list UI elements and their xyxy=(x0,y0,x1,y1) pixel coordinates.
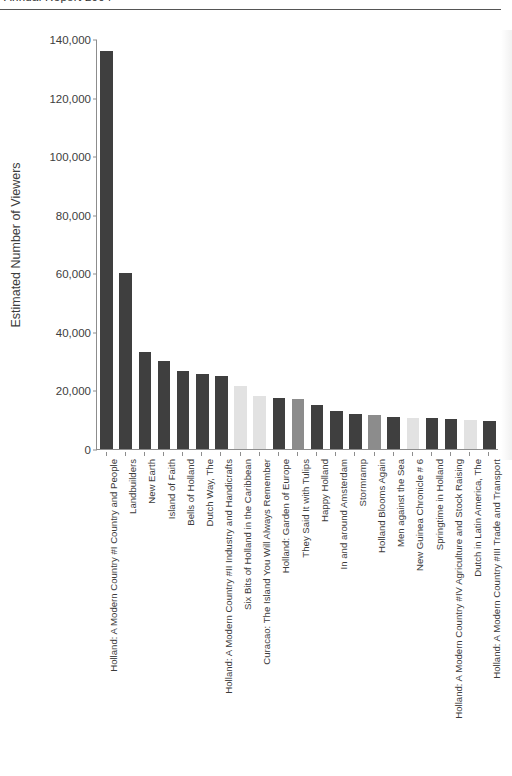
bar[interactable] xyxy=(196,374,209,449)
y-axis-tick-mark xyxy=(93,450,97,451)
x-axis-tick-mark xyxy=(220,452,221,456)
x-axis-tick-mark xyxy=(182,452,183,456)
bar[interactable] xyxy=(292,399,305,449)
x-axis-tick-mark xyxy=(163,452,164,456)
bar[interactable] xyxy=(139,352,152,449)
bar[interactable] xyxy=(407,418,420,449)
x-axis-tick-mark xyxy=(201,452,202,456)
bar[interactable] xyxy=(387,417,400,449)
x-axis-tick-label: Holland: A Modern Country #IV Agricultur… xyxy=(454,459,464,719)
x-axis-tick-label: Landbuilders xyxy=(128,459,138,514)
y-axis-tick-mark xyxy=(93,274,97,275)
x-axis-tick-mark xyxy=(278,452,279,456)
y-axis-tick-label: 0 xyxy=(85,444,91,456)
bar[interactable] xyxy=(330,411,343,449)
x-axis-tick-mark xyxy=(431,452,432,456)
x-axis-tick-label: Springtime in Holland xyxy=(435,459,445,550)
x-axis-tick-label: Holland Blooms Again xyxy=(377,459,387,553)
x-axis-tick-label: In and around Amsterdam xyxy=(339,459,349,569)
y-axis-tick-label: 20,000 xyxy=(56,385,91,397)
y-axis-tick-mark xyxy=(93,98,97,99)
x-axis-tick-mark xyxy=(297,452,298,456)
x-axis-tick-label: Holland: A Modern Country #II Industry a… xyxy=(224,459,234,694)
x-axis-tick-label: New Guinea Chronicle # 6 xyxy=(415,459,425,571)
x-axis-tick-label: Curacao: The Island You Will Always Reme… xyxy=(262,459,272,665)
x-axis-tick-label: Stormramp xyxy=(358,459,368,506)
x-axis-tick-mark xyxy=(125,452,126,456)
y-axis-title: Estimated Number of Viewers xyxy=(9,162,23,327)
y-axis-tick-mark xyxy=(93,332,97,333)
bar[interactable] xyxy=(119,273,132,449)
x-axis-tick-label: Bells of Holland xyxy=(186,459,196,526)
x-axis-tick-label: Dutch in Latin America, The xyxy=(473,459,483,577)
x-axis-tick-mark xyxy=(240,452,241,456)
y-axis-tick-label: 120,000 xyxy=(49,93,91,105)
x-axis-labels: Holland: A Modern Country #I Country and… xyxy=(96,452,498,762)
x-axis-tick-label: Dutch Way, The xyxy=(205,459,215,527)
bar[interactable] xyxy=(158,361,171,449)
y-axis-tick-label: 140,000 xyxy=(49,34,91,46)
x-axis-tick-mark xyxy=(450,452,451,456)
plot-area: 020,00040,00060,00080,000100,000120,0001… xyxy=(96,40,498,450)
cropped-header-caption: Annual Report 2004 xyxy=(4,0,112,3)
x-axis-tick-mark xyxy=(259,452,260,456)
x-axis-tick-label: New Earth xyxy=(147,459,157,504)
x-axis-tick-mark xyxy=(354,452,355,456)
x-axis-tick-mark xyxy=(106,452,107,456)
x-axis-tick-label: Six Bits of Holland in the Caribbean xyxy=(243,459,253,610)
y-axis-tick-label: 40,000 xyxy=(56,327,91,339)
y-axis-tick-mark xyxy=(93,215,97,216)
x-axis-tick-label: Island of Faith xyxy=(167,459,177,519)
page-header-strip: Annual Report 2004 xyxy=(0,0,512,12)
bar[interactable] xyxy=(445,419,458,449)
bar[interactable] xyxy=(100,51,113,449)
x-axis-tick-mark xyxy=(412,452,413,456)
bar[interactable] xyxy=(311,405,324,449)
x-axis-tick-label: Holland: Garden of Europe xyxy=(281,459,291,573)
bar[interactable] xyxy=(177,371,190,449)
x-axis-tick-mark xyxy=(144,452,145,456)
header-divider-rule xyxy=(0,9,501,10)
x-axis-tick-mark xyxy=(316,452,317,456)
bar[interactable] xyxy=(426,418,439,449)
x-axis-tick-label: They Said It with Tulips xyxy=(301,459,311,558)
y-axis-tick-mark xyxy=(93,391,97,392)
x-axis-tick-label: Holland: A Modern Country #I Country and… xyxy=(109,459,119,672)
y-axis-tick-mark xyxy=(93,40,97,41)
bar-chart: Estimated Number of Viewers 020,00040,00… xyxy=(0,12,512,776)
page-scan-edge-shadow xyxy=(501,30,512,460)
y-axis-tick-label: 80,000 xyxy=(56,210,91,222)
bar[interactable] xyxy=(253,396,266,449)
y-axis-tick-label: 60,000 xyxy=(56,268,91,280)
bar[interactable] xyxy=(234,386,247,449)
y-axis-tick-label: 100,000 xyxy=(49,151,91,163)
x-axis-tick-mark xyxy=(469,452,470,456)
bar[interactable] xyxy=(464,420,477,449)
bar[interactable] xyxy=(215,376,228,449)
bar[interactable] xyxy=(273,398,286,449)
x-axis-tick-label: Happy Holland xyxy=(320,459,330,522)
x-axis-tick-mark xyxy=(393,452,394,456)
y-axis-tick-mark xyxy=(93,157,97,158)
x-axis-tick-mark xyxy=(374,452,375,456)
bar[interactable] xyxy=(349,414,362,449)
x-axis-tick-mark xyxy=(335,452,336,456)
x-axis-tick-mark xyxy=(488,452,489,456)
bar[interactable] xyxy=(483,421,496,449)
x-axis-tick-label: Men against the Sea xyxy=(396,459,406,547)
bar[interactable] xyxy=(368,415,381,449)
x-axis-tick-label: Holland: A Modern Country #III Trade and… xyxy=(492,459,502,679)
